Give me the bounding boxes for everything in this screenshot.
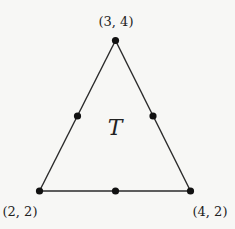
vertex-bottom-left-point <box>36 187 43 194</box>
triangle-diagram: T (3, 4) (2, 2) (4, 2) <box>0 0 235 229</box>
bottom-edge-midpoint <box>112 187 119 194</box>
vertex-bottom-left-label: (2, 2) <box>3 204 38 219</box>
vertex-bottom-right-point <box>187 187 194 194</box>
left-edge-midpoint <box>74 112 81 119</box>
vertex-top-point <box>112 37 119 44</box>
vertex-top-label: (3, 4) <box>99 14 134 29</box>
vertex-bottom-right-label: (4, 2) <box>193 204 228 219</box>
right-edge-midpoint <box>149 112 156 119</box>
triangle-label: T <box>108 115 125 140</box>
